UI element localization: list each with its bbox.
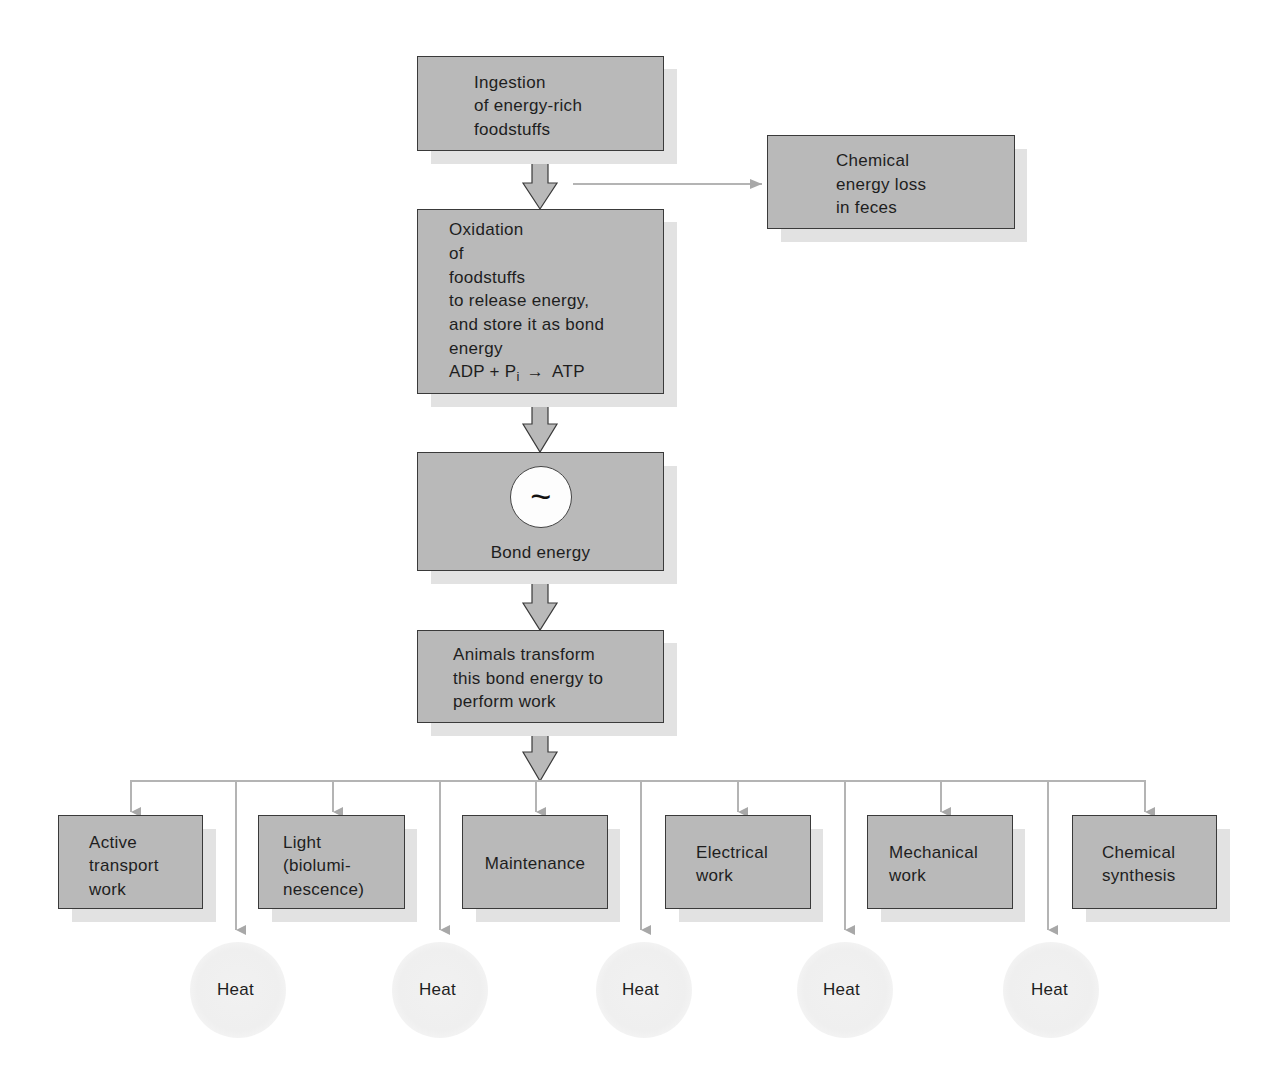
heat-label-3: Heat [622, 980, 659, 1000]
work-box-active-transport: Active transport work [58, 815, 203, 909]
heat-label-1: Heat [217, 980, 254, 1000]
oxidation-line-6: energy [449, 337, 503, 361]
feces-loss-box: Chemical energy loss in feces [767, 135, 1015, 229]
work-box-light: Light (biolumi- nescence) [258, 815, 405, 909]
atp-equation-left: ADP + P [449, 362, 516, 381]
oxidation-line-1: Oxidation [449, 218, 524, 242]
oxidation-line-3: foodstuffs [449, 266, 525, 290]
active-transport-line-1: Active [89, 831, 137, 855]
oxidation-line-4: to release energy, [449, 289, 589, 313]
electrical-line-1: Electrical [696, 841, 768, 865]
light-line-2: (biolumi- [283, 854, 351, 878]
ingestion-line-3: foodstuffs [474, 118, 550, 142]
chemical-synthesis-line-1: Chemical [1102, 841, 1175, 865]
bond-energy-tilde-icon: ~ [510, 466, 572, 528]
atp-equation-right: ATP [552, 362, 585, 381]
feces-line-2: energy loss [836, 173, 926, 197]
chemical-synthesis-line-2: synthesis [1102, 864, 1176, 888]
heat-label-5: Heat [1031, 980, 1068, 1000]
ingestion-line-2: of energy-rich [474, 94, 582, 118]
work-box-maintenance: Maintenance [462, 815, 608, 909]
transform-line-1: Animals transform [453, 643, 595, 667]
tilde-symbol: ~ [530, 479, 551, 515]
work-box-electrical: Electrical work [665, 815, 811, 909]
ingestion-line-1: Ingestion [474, 71, 546, 95]
heat-label-2: Heat [419, 980, 456, 1000]
light-line-1: Light [283, 831, 321, 855]
mechanical-line-1: Mechanical [889, 841, 978, 865]
maintenance-line-1: Maintenance [463, 852, 607, 876]
transform-line-3: perform work [453, 690, 556, 714]
work-box-chemical-synthesis: Chemical synthesis [1072, 815, 1217, 909]
mechanical-line-2: work [889, 864, 926, 888]
feces-line-1: Chemical [836, 149, 909, 173]
light-line-3: nescence) [283, 878, 364, 902]
bond-energy-box: ~ Bond energy [417, 452, 664, 571]
transform-box: Animals transform this bond energy to pe… [417, 630, 664, 723]
electrical-line-2: work [696, 864, 733, 888]
bond-energy-label: Bond energy [418, 541, 663, 565]
reaction-arrow-icon: → [527, 362, 544, 381]
active-transport-line-3: work [89, 878, 126, 902]
active-transport-line-2: transport [89, 854, 159, 878]
work-box-mechanical: Mechanical work [867, 815, 1013, 909]
feces-line-3: in feces [836, 196, 897, 220]
atp-equation-subscript: i [516, 369, 519, 384]
transform-line-2: this bond energy to [453, 667, 603, 691]
heat-label-4: Heat [823, 980, 860, 1000]
ingestion-box: Ingestion of energy-rich foodstuffs [417, 56, 664, 151]
oxidation-box: Oxidation of foodstuffs to release energ… [417, 209, 664, 394]
oxidation-line-2: of [449, 242, 464, 266]
oxidation-line-5: and store it as bond [449, 313, 604, 337]
atp-equation: ADP + Pi → ATP [449, 360, 585, 389]
